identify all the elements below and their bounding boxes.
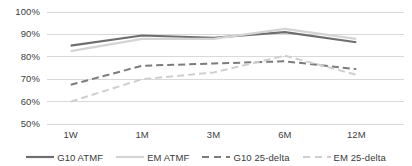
legend-swatch-em-atmf [116, 153, 144, 161]
legend-swatch-g10-atmf [26, 153, 54, 161]
plot-area [0, 0, 412, 166]
legend-entry-g10-atmf[interactable]: G10 ATMF [26, 152, 103, 163]
x-axis-tick-label-1w: 1W [51, 129, 91, 140]
y-axis-tick-label: 70% [0, 73, 40, 84]
y-axis-tick-label: 100% [0, 6, 40, 17]
legend-entry-g10-25-delta[interactable]: G10 25-delta [202, 152, 289, 163]
legend-label-em-25-delta: EM 25-delta [334, 152, 386, 163]
chart-legend: G10 ATMFEM ATMFG10 25-deltaEM 25-delta [0, 148, 412, 166]
legend-label-g10-atmf: G10 ATMF [57, 152, 103, 163]
gridlines [47, 12, 404, 124]
y-axis-tick-label: 50% [0, 118, 40, 129]
legend-swatch-em-25-delta [303, 153, 331, 161]
series-lines [71, 29, 357, 102]
legend-entry-em-25-delta[interactable]: EM 25-delta [303, 152, 386, 163]
x-axis-tick-label-12m: 12M [336, 129, 376, 140]
x-axis-tick-label-1m: 1M [122, 129, 162, 140]
y-axis-tick-label: 90% [0, 28, 40, 39]
legend-swatch-g10-25-delta [202, 153, 230, 161]
legend-entry-em-atmf[interactable]: EM ATMF [116, 152, 189, 163]
y-axis-tick-label: 60% [0, 96, 40, 107]
y-axis-tick-label: 80% [0, 51, 40, 62]
x-axis-tick-label-6m: 6M [265, 129, 305, 140]
x-axis-tick-label-3m: 3M [194, 129, 234, 140]
legend-label-g10-25-delta: G10 25-delta [233, 152, 289, 163]
volatility-line-chart: 100%90%80%70%60%50% 1W1M3M6M12M G10 ATMF… [0, 0, 412, 166]
legend-label-em-atmf: EM ATMF [147, 152, 189, 163]
